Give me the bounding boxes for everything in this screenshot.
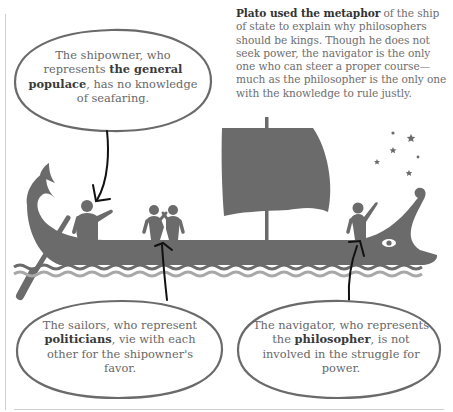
arrow-to-shipowner <box>97 131 108 200</box>
caption-sailors: The sailors, who represent politicians, … <box>30 318 210 376</box>
caption-navigator: The navigator, who represents the philos… <box>252 318 430 376</box>
stars-icon <box>374 131 419 176</box>
intro-paragraph: Plato used the metaphor of the ship of s… <box>236 7 452 100</box>
figure-shipowner <box>74 200 113 240</box>
caption-shipowner: The shipowner, who represents the genera… <box>28 48 198 106</box>
sail <box>222 128 331 216</box>
figure-sailors <box>144 205 183 240</box>
caption-text: The sailors, who represent <box>43 318 197 332</box>
intro-bold-lead: Plato used the metaphor <box>236 7 380 19</box>
intro-body: of the ship of state to explain why phil… <box>236 7 446 99</box>
figure-navigator <box>348 202 378 240</box>
caption-bold: politicians <box>44 332 111 346</box>
waves <box>14 265 422 276</box>
caption-bold: philosopher <box>295 332 371 346</box>
eye-icon <box>382 239 396 247</box>
caption-text: , has no knowledge of seafaring. <box>77 77 198 105</box>
